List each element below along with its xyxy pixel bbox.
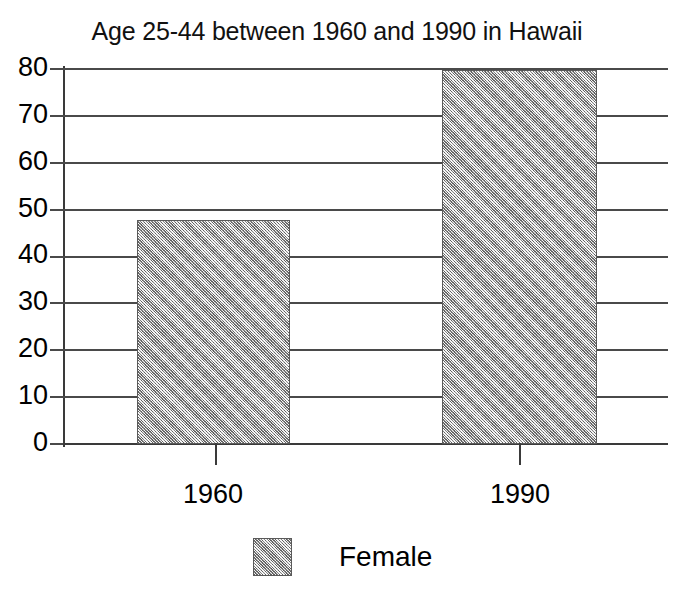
chart-title: Age 25-44 between 1960 and 1990 in Hawai… — [0, 16, 674, 46]
chart-legend: Female — [0, 538, 674, 584]
x-category-label-1990: 1990 — [420, 481, 620, 508]
y-tick-label: 20 — [2, 335, 48, 362]
y-tick-mark — [50, 302, 64, 304]
y-tick-mark — [50, 162, 64, 164]
y-tick-mark — [50, 443, 64, 445]
bar-1990-female[interactable] — [442, 70, 597, 444]
x-category-tick — [215, 443, 217, 465]
legend-label-female: Female — [339, 543, 432, 571]
y-tick-label: 50 — [2, 195, 48, 222]
y-axis-labels: 80 70 60 50 40 30 20 10 0 — [0, 0, 48, 599]
y-tick-mark — [50, 115, 64, 117]
x-category-label-1960: 1960 — [113, 481, 313, 508]
y-tick-label: 10 — [2, 382, 48, 409]
clipped-top-text — [0, 0, 674, 2]
legend-swatch-icon — [253, 538, 292, 576]
y-tick-label: 40 — [2, 241, 48, 268]
y-tick-mark — [50, 349, 64, 351]
x-category-tick — [519, 443, 521, 465]
y-tick-label: 30 — [2, 288, 48, 315]
y-tick-mark — [50, 396, 64, 398]
y-tick-label: 70 — [2, 101, 48, 128]
y-tick-label: 80 — [2, 54, 48, 81]
bar-1960-female[interactable] — [137, 220, 290, 444]
y-tick-mark — [50, 209, 64, 211]
y-tick-label: 0 — [2, 429, 48, 456]
y-tick-mark — [50, 68, 64, 70]
chart-container: Age 25-44 between 1960 and 1990 in Hawai… — [0, 0, 674, 599]
y-tick-mark — [50, 256, 64, 258]
y-tick-label: 60 — [2, 148, 48, 175]
plot-area — [63, 68, 668, 443]
legend-entry-female[interactable]: Female — [253, 538, 432, 576]
